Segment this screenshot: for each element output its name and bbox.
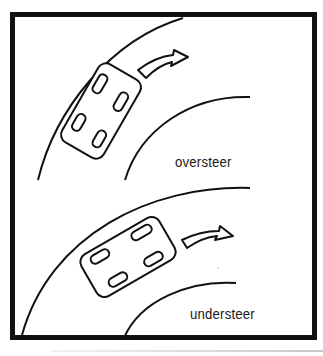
- label-oversteer: oversteer: [175, 153, 232, 170]
- speck: [217, 267, 219, 269]
- car-understeer: [77, 214, 179, 301]
- curved-arrow-icon: [138, 50, 188, 78]
- page-edge-rule: [50, 350, 323, 352]
- curved-arrow-icon: [182, 226, 233, 248]
- car-oversteer: [58, 60, 145, 162]
- steering-diagram: oversteer understeer: [0, 0, 323, 356]
- diagram-canvas: [0, 0, 323, 356]
- label-understeer: understeer: [190, 305, 255, 322]
